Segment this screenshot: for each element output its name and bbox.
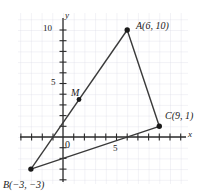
origin-label: 0	[65, 140, 70, 150]
point-C	[157, 124, 162, 129]
point-label-c: C(9, 1)	[165, 111, 193, 121]
y-tick-label-5: 5	[51, 78, 56, 87]
x-tick-label-5: 5	[113, 144, 118, 153]
point-A	[125, 27, 130, 32]
y-tick-label-10: 10	[43, 24, 52, 33]
point-label-m: M	[71, 88, 79, 98]
grid-background	[18, 13, 188, 184]
point-B	[28, 166, 33, 171]
plot-canvas	[0, 0, 203, 196]
coordinate-plane-figure: A(6, 10) C(9, 1) B(−3, −3) M y x 10 5 0 …	[0, 0, 203, 196]
y-axis-label: y	[65, 11, 69, 20]
x-axis-label: x	[188, 130, 192, 139]
point-label-a: A(6, 10)	[136, 21, 169, 31]
point-label-b: B(−3, −3)	[3, 180, 44, 190]
